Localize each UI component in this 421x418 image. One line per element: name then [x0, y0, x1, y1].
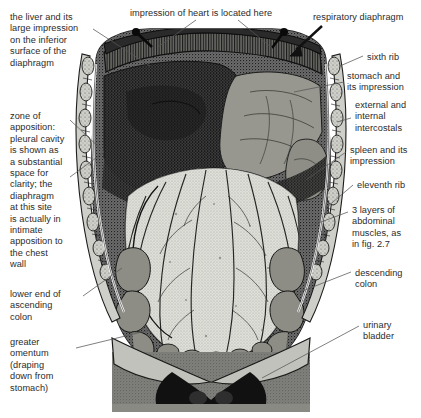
label-liver-impression: the liver and its large impression on th…	[10, 12, 78, 69]
label-descending-colon: descending colon	[355, 268, 403, 291]
label-sixth-rib: sixth rib	[367, 52, 399, 63]
label-stomach-impression: stomach and its impression	[347, 71, 404, 94]
label-greater-omentum: greater omentum (draping down from stoma…	[10, 337, 53, 394]
label-eleventh-rib: eleventh rib	[357, 180, 405, 191]
diaphragm-dome	[90, 27, 336, 384]
label-heart-impression: impression of heart is located here	[130, 8, 272, 19]
label-intercostals: external and internal intercostals	[355, 100, 406, 134]
label-zone-of-apposition: zone of apposition: pleural cavity is sh…	[10, 111, 64, 271]
label-urinary-bladder: urinary bladder	[363, 320, 394, 343]
label-spleen-impression: spleen and its impression	[350, 145, 407, 168]
label-respiratory-diaphragm: respiratory diaphragm	[313, 12, 403, 23]
label-abdominal-muscles: 3 layers of abdominal muscles, as in fig…	[352, 205, 401, 251]
label-ascending-colon: lower end of ascending colon	[10, 289, 61, 323]
anatomical-figure: the liver and its large impression on th…	[0, 0, 421, 418]
